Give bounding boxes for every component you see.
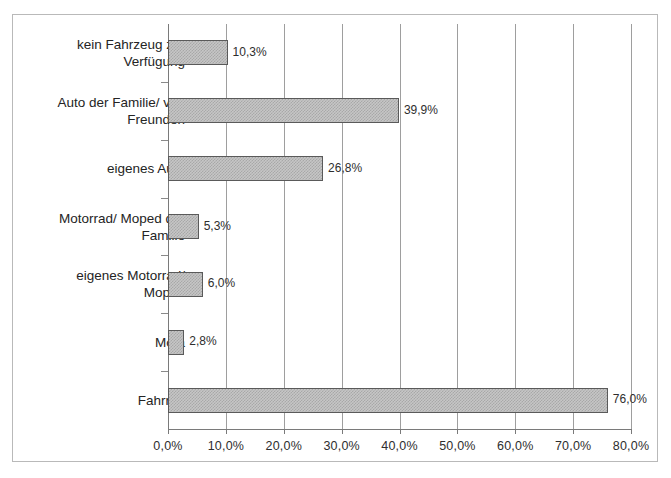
- x-axis-tick: [573, 429, 574, 434]
- bar: [168, 330, 184, 355]
- y-axis-tick: [161, 140, 168, 141]
- gridline: [515, 24, 516, 429]
- bar: [168, 40, 228, 65]
- bar-value-label: 6,0%: [208, 276, 235, 290]
- bar-value-label: 26,8%: [328, 161, 362, 175]
- x-axis-tick: [457, 429, 458, 434]
- gridline: [342, 24, 343, 429]
- x-axis-tick-label: 70,0%: [555, 439, 591, 453]
- category-label: Fahrrad: [0, 392, 185, 409]
- chart-frame: 0,0%10,0%20,0%30,0%40,0%50,0%60,0%70,0%8…: [12, 14, 658, 462]
- y-axis-tick: [161, 198, 168, 199]
- x-axis-tick: [515, 429, 516, 434]
- bar: [168, 272, 203, 297]
- y-axis-tick: [161, 313, 168, 314]
- y-axis-tick: [161, 82, 168, 83]
- gridline: [631, 24, 632, 429]
- category-label: Auto der Familie/ von Freunden: [0, 94, 185, 128]
- x-axis-tick-label: 50,0%: [439, 439, 475, 453]
- x-axis-tick: [284, 429, 285, 434]
- gridline: [457, 24, 458, 429]
- x-axis-tick: [631, 429, 632, 434]
- gridline: [284, 24, 285, 429]
- bar: [168, 98, 399, 123]
- gridline: [573, 24, 574, 429]
- category-label: kein Fahrzeug zur Verfügung: [0, 36, 185, 70]
- x-axis-tick: [226, 429, 227, 434]
- x-axis-tick-label: 80,0%: [613, 439, 649, 453]
- bar: [168, 388, 608, 413]
- x-axis-tick: [168, 429, 169, 434]
- bar-value-label: 5,3%: [204, 219, 231, 233]
- x-axis-tick-label: 30,0%: [323, 439, 359, 453]
- category-label: Motorrad/ Moped der Familie: [0, 210, 185, 244]
- x-axis-tick-label: 40,0%: [381, 439, 417, 453]
- x-axis-tick-label: 20,0%: [266, 439, 302, 453]
- y-axis-tick: [161, 371, 168, 372]
- bar-value-label: 10,3%: [233, 45, 267, 59]
- bar-value-label: 76,0%: [613, 392, 647, 406]
- bar-value-label: 39,9%: [404, 103, 438, 117]
- y-axis-tick: [161, 255, 168, 256]
- x-axis-tick-label: 60,0%: [497, 439, 533, 453]
- bar-value-label: 2,8%: [189, 334, 216, 348]
- x-axis-tick-label: 10,0%: [208, 439, 244, 453]
- x-axis-tick: [400, 429, 401, 434]
- category-label: Mofa: [0, 334, 185, 351]
- x-axis-tick: [342, 429, 343, 434]
- category-label: eigenes Auto: [0, 160, 185, 177]
- category-label: eigenes Motorrad/ Moped: [0, 267, 185, 301]
- bar: [168, 156, 323, 181]
- gridline: [400, 24, 401, 429]
- x-axis-tick-label: 0,0%: [153, 439, 182, 453]
- bar: [168, 214, 199, 239]
